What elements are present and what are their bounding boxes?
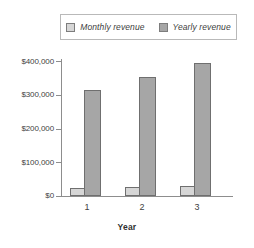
bar-yearly-revenue-year-3 — [194, 63, 211, 196]
legend-item-monthly-revenue: Monthly revenue — [66, 22, 144, 32]
y-axis-label-0: $0 — [45, 191, 54, 200]
legend-label-monthly-revenue: Monthly revenue — [80, 22, 144, 32]
y-axis-label-400000: $400,000 — [21, 57, 54, 66]
x-axis-label-1: 1 — [67, 202, 107, 212]
x-axis-title: Year — [0, 222, 254, 232]
y-axis-label-300000: $300,000 — [21, 90, 54, 99]
x-axis-line — [61, 196, 233, 197]
legend-swatch-monthly-revenue — [66, 23, 75, 32]
legend-swatch-yearly-revenue — [159, 23, 168, 32]
bar-chart: Monthly revenue Yearly revenue $400,000 … — [0, 0, 254, 248]
plot-area — [62, 61, 224, 196]
y-axis-label-200000: $200,000 — [21, 124, 54, 133]
x-axis-label-2: 2 — [122, 202, 162, 212]
y-axis-label-100000: $100,000 — [21, 158, 54, 167]
bar-monthly-revenue-year-1 — [70, 188, 85, 196]
bar-monthly-revenue-year-3 — [180, 186, 195, 196]
bar-monthly-revenue-year-2 — [125, 187, 140, 196]
x-axis-label-3: 3 — [177, 202, 217, 212]
bar-yearly-revenue-year-2 — [139, 77, 156, 196]
legend-label-yearly-revenue: Yearly revenue — [173, 22, 231, 32]
bar-yearly-revenue-year-1 — [84, 90, 101, 196]
legend-item-yearly-revenue: Yearly revenue — [159, 22, 231, 32]
chart-legend: Monthly revenue Yearly revenue — [60, 14, 237, 40]
